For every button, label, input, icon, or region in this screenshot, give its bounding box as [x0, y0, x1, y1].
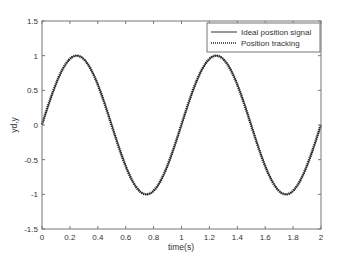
x-tick-label: 0.2 [64, 233, 76, 242]
x-axis-label: time(s) [168, 242, 194, 252]
plot-area [42, 56, 321, 195]
x-tick-label: 0.8 [148, 233, 160, 242]
x-tick-label: 0.6 [120, 233, 132, 242]
y-tick-label: 0 [34, 121, 39, 130]
y-axis-label: yd,y [9, 116, 19, 132]
legend-entry: Position tracking [241, 39, 300, 48]
y-tick-label: 1 [34, 52, 39, 61]
x-tick-label: 2 [319, 233, 324, 242]
ideal-position-line [42, 56, 321, 195]
y-tick-label: -0.5 [24, 156, 38, 165]
x-tick-label: 1 [179, 233, 184, 242]
y-tick-label: -1.5 [24, 225, 38, 234]
chart: 00.20.40.60.811.21.41.61.82-1.5-1-0.500.… [0, 0, 338, 262]
y-tick-label: 1.5 [27, 17, 39, 26]
y-tick-label: 0.5 [27, 86, 39, 95]
y-tick-label: -1 [31, 190, 39, 199]
x-tick-label: 1.4 [232, 233, 244, 242]
x-tick-label: 1.2 [204, 233, 216, 242]
x-tick-label: 1.8 [288, 233, 300, 242]
legend: Ideal position signalPosition tracking [207, 23, 320, 52]
x-tick-label: 1.6 [260, 233, 272, 242]
x-tick-label: 0 [40, 233, 45, 242]
legend-entry: Ideal position signal [241, 28, 311, 37]
x-tick-label: 0.4 [92, 233, 104, 242]
